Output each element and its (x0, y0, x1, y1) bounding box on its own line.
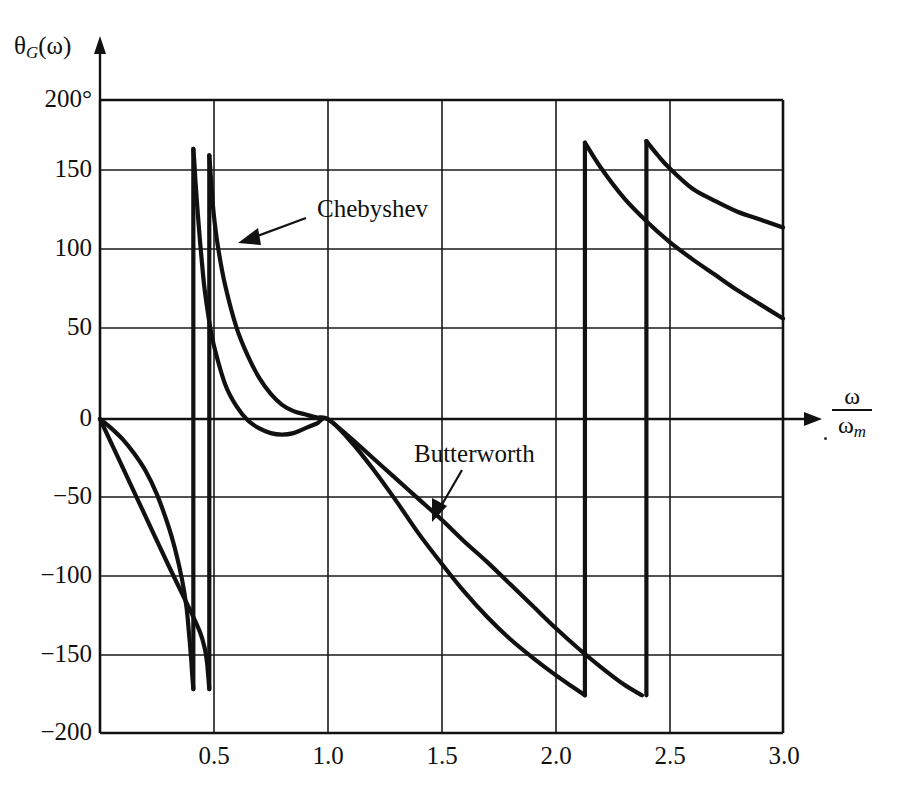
curve-butterworth-seg1 (209, 155, 642, 695)
y-axis-arrow-icon (94, 36, 106, 100)
curve-chebyshev-seg0 (100, 419, 193, 689)
y-tick-label-100: 100 (0, 234, 92, 262)
curve-chebyshev-seg1 (193, 149, 585, 695)
page-speck (824, 437, 827, 440)
chebyshev-annotation-arrow-icon (238, 218, 306, 245)
x-tick-label-1p0: 1.0 (288, 742, 368, 770)
y-tick-label-50: 50 (0, 313, 92, 341)
y-tick-label-0: 0 (0, 404, 92, 432)
x-tick-label-2p0: 2.0 (516, 742, 596, 770)
x-tick-label-1p5: 1.5 (402, 742, 482, 770)
y-tick-label-minus-50: −50 (0, 482, 92, 510)
x-tick-label-3p0: 3.0 (744, 742, 824, 770)
chart-canvas (0, 0, 910, 806)
y-tick-label-150: 150 (0, 155, 92, 183)
x-tick-label-2p5: 2.5 (630, 742, 710, 770)
chebyshev-label: Chebyshev (317, 195, 428, 223)
y-tick-label-minus-150: −150 (0, 640, 92, 668)
vertical-gridlines (214, 100, 670, 733)
y-tick-label-minus-100: −100 (0, 561, 92, 589)
y-tick-label-200: 200° (0, 85, 92, 113)
curve-chebyshev-seg2 (585, 143, 783, 319)
x-tick-label-0p5: 0.5 (174, 742, 254, 770)
butterworth-label: Butterworth (414, 440, 535, 468)
butterworth-annotation-arrow-icon (432, 470, 462, 522)
curve-butterworth-seg2 (646, 141, 783, 227)
phase-response-figure: θG(ω) ω ωm (0, 0, 910, 806)
y-tick-label-minus-200: −200 (0, 718, 92, 746)
